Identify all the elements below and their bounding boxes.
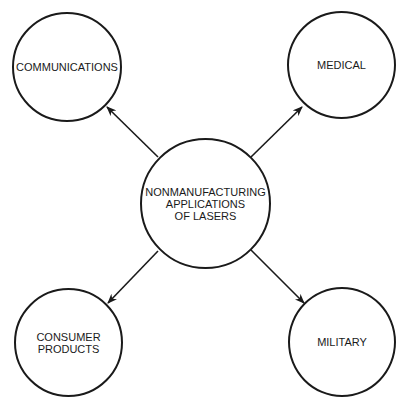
- node-medical: MEDICAL: [287, 11, 396, 119]
- node-military: MILITARY: [288, 287, 396, 397]
- node-label: MILITARY: [317, 336, 367, 348]
- arrow-to-communications: [107, 107, 158, 157]
- node-consumer-products: CONSUMER PRODUCTS: [14, 288, 123, 397]
- center-node-label: NONMANUFACTURING APPLICATIONS OF LASERS: [145, 186, 265, 222]
- node-label: MEDICAL: [317, 59, 366, 71]
- arrow-to-consumer-products: [108, 251, 158, 303]
- node-label: COMMUNICATIONS: [16, 61, 118, 73]
- center-node: NONMANUFACTURING APPLICATIONS OF LASERS: [140, 138, 271, 269]
- arrow-to-military: [251, 250, 304, 303]
- node-label: CONSUMER PRODUCTS: [36, 331, 100, 355]
- node-communications: COMMUNICATIONS: [12, 12, 122, 122]
- arrow-to-medical: [251, 107, 302, 157]
